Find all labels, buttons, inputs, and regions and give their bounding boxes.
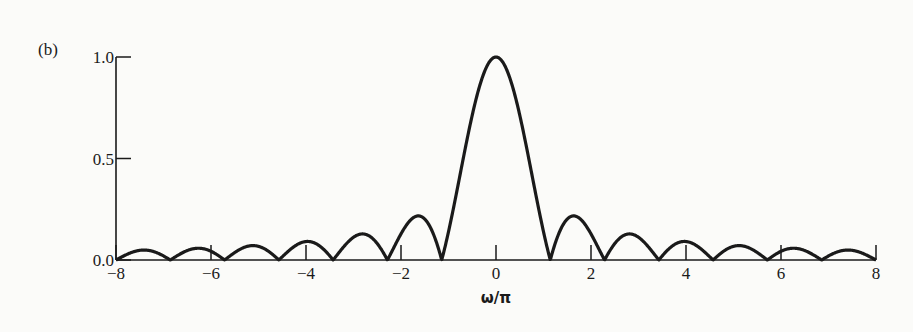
x-tick-label: −8	[107, 264, 125, 283]
data-curve	[116, 57, 876, 260]
axes	[116, 57, 876, 260]
chart: 0.00.51.0−8−6−4−202468 ω/π	[0, 0, 913, 332]
x-tick-label: 0	[492, 264, 501, 283]
x-axis-label: ω/π	[481, 289, 511, 307]
x-tick-label: 6	[777, 264, 786, 283]
x-tick-label: −6	[202, 264, 220, 283]
y-tick-label: 1.0	[93, 48, 114, 67]
x-tick-label: 2	[587, 264, 596, 283]
y-tick-label: 0.5	[93, 150, 114, 169]
x-tick-label: −4	[297, 264, 316, 283]
x-tick-label: 4	[682, 264, 691, 283]
x-tick-label: 8	[872, 264, 881, 283]
ticks: 0.00.51.0−8−6−4−202468	[93, 48, 881, 283]
x-tick-label: −2	[392, 264, 410, 283]
